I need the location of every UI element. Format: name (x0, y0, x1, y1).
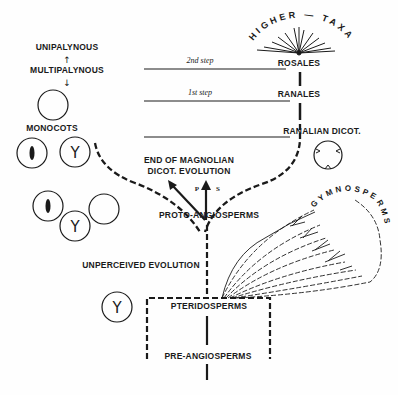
pollen-grain-trichotomocolpate-icon: Y (60, 137, 90, 167)
end-magnolian-label-line2: DICOT. EVOLUTION (147, 166, 230, 176)
rosales-label: ROSALES (278, 58, 321, 68)
svg-text:Y: Y (111, 299, 122, 317)
gymnosperms-label: GYMNOSPERMS (309, 184, 392, 227)
unperceived-evolution-label: UNPERCEIVED EVOLUTION (82, 260, 200, 270)
phylogeny-diagram: UNIPALYNOUS ↑ MULTIPALYNOUS ↓ MONOCOTS Y… (0, 0, 398, 395)
pollen-grain-trichotomocolpate-icon: Y (102, 292, 132, 322)
first-step-label: 1st step (188, 88, 212, 97)
p-arrow-label: P (195, 185, 200, 193)
unipalynous-label: UNIPALYNOUS (36, 42, 99, 52)
pollen-grain-monosulcate-icon (33, 191, 63, 221)
pollen-grain-plain-icon (38, 90, 68, 120)
ranales-label: RANALES (278, 89, 321, 99)
s-arrow-label: S (216, 185, 220, 193)
arrow-up-icon: ↑ (63, 55, 71, 65)
svg-text:Y: Y (69, 218, 80, 236)
higher-taxa-label: HIGHER — TAXA (247, 9, 357, 42)
pollen-grain-monosulcate-icon (17, 138, 47, 168)
arrow-down-icon: ↓ (63, 78, 71, 88)
pre-angiosperms-label: PRE-ANGIOSPERMS (164, 351, 251, 361)
pollen-grain-triaperturate-icon (314, 141, 342, 169)
ranalian-dicot-label: RANALIAN DICOT. (283, 126, 361, 136)
proto-angiosperms-label: PROTO-ANGIOSPERMS (159, 210, 259, 220)
monocots-label: MONOCOTS (26, 123, 78, 133)
higher-taxa-burst (257, 27, 335, 55)
multipalynous-label: MULTIPALYNOUS (30, 65, 104, 75)
second-step-label: 2nd step (187, 56, 214, 65)
pteridosperms-label: PTERIDOSPERMS (171, 301, 247, 311)
svg-text:Y: Y (69, 144, 80, 162)
pollen-grain-plain-icon (89, 194, 119, 224)
pollen-grain-trichotomocolpate-icon: Y (60, 211, 90, 241)
end-magnolian-label-line1: END OF MAGNOLIAN (144, 155, 234, 165)
